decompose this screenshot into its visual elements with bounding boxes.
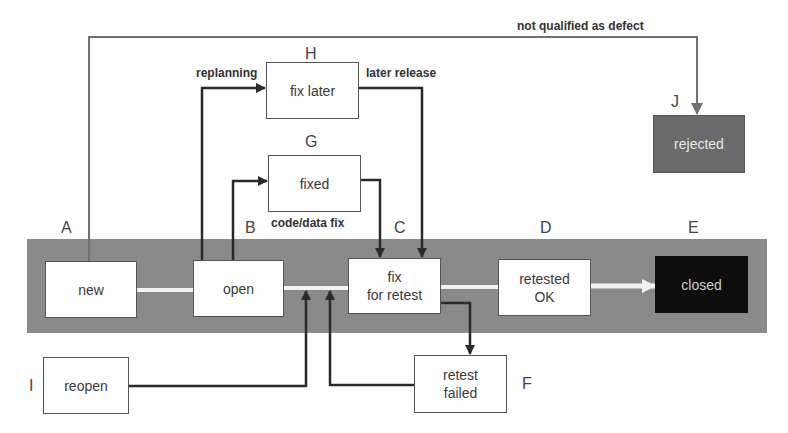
label-code-data-fix: code/data fix: [271, 216, 344, 230]
state-letter-b: B: [245, 219, 256, 237]
state-fix-later: fix later: [266, 62, 359, 119]
state-fix-for-retest-label: fix for retest: [367, 268, 422, 304]
state-open: open: [193, 260, 284, 317]
state-rejected-label: rejected: [674, 135, 724, 153]
state-letter-c: C: [394, 219, 406, 237]
state-open-label: open: [223, 280, 254, 298]
state-fix-later-label: fix later: [290, 82, 335, 100]
state-new-label: new: [78, 281, 104, 299]
state-retested-ok-label: retested OK: [519, 270, 570, 306]
state-letter-h: H: [305, 45, 317, 63]
state-closed: closed: [655, 256, 748, 313]
state-fixed-label: fixed: [300, 175, 330, 193]
state-letter-a: A: [61, 219, 72, 237]
label-not-qualified: not qualified as defect: [517, 19, 644, 33]
state-retest-failed-label: retest failed: [443, 366, 478, 402]
state-fix-for-retest: fix for retest: [348, 258, 441, 314]
state-reopen: reopen: [43, 357, 129, 414]
state-letter-i: I: [29, 377, 33, 395]
state-letter-f: F: [522, 375, 532, 393]
state-fixed: fixed: [268, 155, 361, 212]
label-replanning: replanning: [196, 66, 257, 80]
state-letter-d: D: [540, 219, 552, 237]
state-letter-g: G: [305, 133, 317, 151]
state-new: new: [45, 261, 137, 318]
label-later-release: later release: [366, 66, 436, 80]
state-letter-e: E: [688, 219, 699, 237]
state-letter-j: J: [671, 93, 679, 111]
state-closed-label: closed: [681, 276, 721, 294]
state-reopen-label: reopen: [64, 377, 108, 395]
state-rejected: rejected: [653, 115, 745, 173]
state-retested-ok: retested OK: [498, 259, 591, 316]
state-retest-failed: retest failed: [414, 355, 507, 413]
